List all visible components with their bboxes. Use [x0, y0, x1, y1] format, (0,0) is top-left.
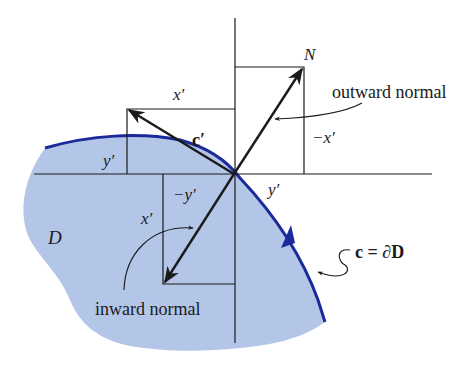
boundary-label: c = ∂D [355, 242, 404, 262]
boundary-callout-arrow [318, 250, 350, 276]
region-d-label: D [47, 227, 62, 248]
outward-normal-vector [234, 69, 302, 174]
tangent-y-label: y′ [101, 151, 115, 170]
outward-neg-x-label: −x′ [312, 128, 335, 147]
outward-normal-label: outward normal [332, 82, 446, 102]
outward-callout-arrow [275, 103, 362, 119]
outward-y-label: y′ [266, 180, 280, 199]
diagram-svg: x′ y′ c′ N outward normal −x′ y′ −y′ x′ … [0, 0, 473, 378]
inward-neg-y-label: −y′ [173, 185, 196, 204]
inward-x-label: x′ [140, 209, 153, 228]
diagram-canvas: x′ y′ c′ N outward normal −x′ y′ −y′ x′ … [0, 0, 473, 378]
inward-normal-label: inward normal [95, 299, 200, 319]
tangent-x-label: x′ [172, 85, 185, 104]
tangent-vector-label: c′ [192, 130, 205, 150]
normal-tip-label: N [303, 45, 317, 64]
